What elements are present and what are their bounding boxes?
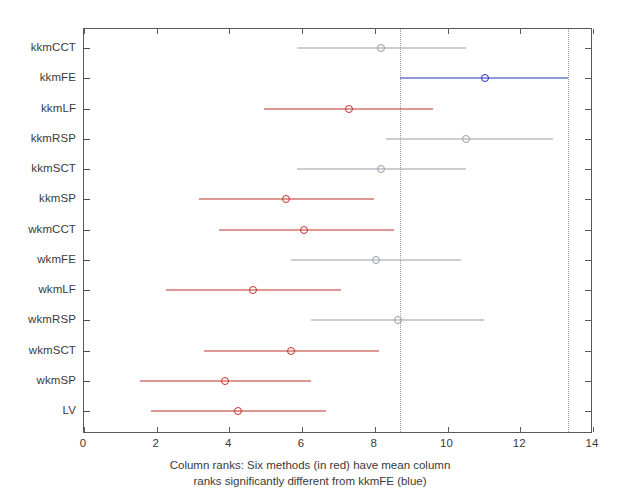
x-axis-tick (84, 427, 85, 432)
x-axis-tick-top (520, 29, 521, 34)
mean-rank-marker[interactable] (282, 195, 290, 203)
x-axis-tick-label: 6 (281, 437, 321, 449)
y-axis-tick-label-kkmsct[interactable]: kkmSCT (31, 162, 76, 174)
x-axis-tick-top (84, 29, 85, 34)
comparison-interval-row[interactable] (84, 252, 591, 268)
mean-rank-marker[interactable] (287, 347, 295, 355)
x-axis-tick (520, 427, 521, 432)
y-axis-tick-label-lv[interactable]: LV (63, 404, 76, 416)
x-axis-label-line2: ranks significantly different from kkmFE… (0, 473, 620, 489)
mean-rank-marker[interactable] (221, 377, 229, 385)
y-axis-tick-labels: kkmCCTkkmFEkkmLFkkmRSPkkmSCTkkmSPwkmCCTw… (0, 0, 76, 494)
y-axis-tick-label-kkmsp[interactable]: kkmSP (39, 192, 76, 204)
y-axis-tick-label-wkmrsp[interactable]: wkmRSP (28, 313, 76, 325)
mean-rank-marker[interactable] (249, 286, 257, 294)
mean-rank-marker[interactable] (394, 316, 402, 324)
x-axis-label-line1: Column ranks: Six methods (in red) have … (170, 459, 451, 471)
x-axis-tick (593, 427, 594, 432)
x-axis-tick-top (157, 29, 158, 34)
comparison-interval-row[interactable] (84, 343, 591, 359)
x-axis-tick-label: 0 (63, 437, 103, 449)
y-axis-tick-label-wkmlf[interactable]: wkmLF (38, 283, 76, 295)
y-axis-tick-label-kkmlf[interactable]: kkmLF (41, 102, 76, 114)
mean-rank-marker[interactable] (462, 135, 470, 143)
comparison-interval-row[interactable] (84, 161, 591, 177)
y-axis-tick-label-wkmsct[interactable]: wkmSCT (29, 344, 76, 356)
mean-rank-marker[interactable] (345, 105, 353, 113)
y-axis-tick-label-kkmcct[interactable]: kkmCCT (31, 41, 76, 53)
comparison-interval-row[interactable] (84, 312, 591, 328)
x-axis-tick-label: 12 (499, 437, 539, 449)
x-axis-tick (448, 427, 449, 432)
comparison-interval-row[interactable] (84, 131, 591, 147)
x-axis-tick-top (593, 29, 594, 34)
comparison-interval-row[interactable] (84, 373, 591, 389)
mean-rank-marker[interactable] (377, 44, 385, 52)
y-axis-tick-label-wkmcct[interactable]: wkmCCT (28, 223, 76, 235)
x-axis-tick-top (375, 29, 376, 34)
y-axis-tick-label-wkmfe[interactable]: wkmFE (37, 253, 76, 265)
x-axis-tick-label: 10 (427, 437, 467, 449)
x-axis-tick-top (448, 29, 449, 34)
multcompare-figure: kkmCCTkkmFEkkmLFkkmRSPkkmSCTkkmSPwkmCCTw… (0, 0, 620, 494)
mean-rank-marker[interactable] (377, 165, 385, 173)
comparison-interval-row[interactable] (84, 40, 591, 56)
comparison-interval-row[interactable] (84, 191, 591, 207)
y-axis-tick-label-kkmfe[interactable]: kkmFE (40, 71, 76, 83)
x-axis-tick-label: 4 (208, 437, 248, 449)
x-axis-tick-top (302, 29, 303, 34)
y-axis-tick-label-wkmsp[interactable]: wkmSP (37, 374, 76, 386)
comparison-interval-row[interactable] (84, 282, 591, 298)
mean-rank-marker[interactable] (372, 256, 380, 264)
x-axis-tick (375, 427, 376, 432)
x-axis-tick (157, 427, 158, 432)
comparison-interval-row[interactable] (84, 222, 591, 238)
x-axis-tick (302, 427, 303, 432)
x-axis-tick-label: 14 (572, 437, 612, 449)
comparison-interval-row[interactable] (84, 70, 591, 86)
plot-area (83, 28, 592, 433)
mean-rank-marker[interactable] (300, 226, 308, 234)
x-axis-tick-label: 2 (136, 437, 176, 449)
y-axis-tick-label-kkmrsp[interactable]: kkmRSP (31, 132, 76, 144)
comparison-interval-row[interactable] (84, 403, 591, 419)
mean-rank-marker[interactable] (481, 74, 489, 82)
mean-rank-marker[interactable] (234, 407, 242, 415)
x-axis-tick (229, 427, 230, 432)
comparison-interval-row[interactable] (84, 101, 591, 117)
x-axis-tick-top (229, 29, 230, 34)
x-axis-tick-label: 8 (354, 437, 394, 449)
x-axis-label: Column ranks: Six methods (in red) have … (0, 457, 620, 489)
